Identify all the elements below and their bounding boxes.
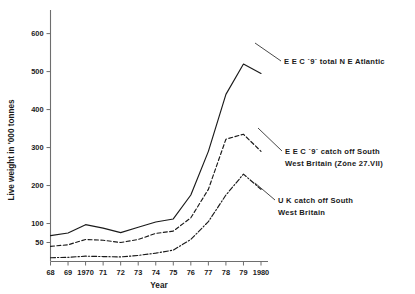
- annotation-uk-southwest-line-2: West Britain: [278, 208, 325, 217]
- y-axis-title-text: Live weight in '000 tonnes: [7, 99, 16, 201]
- annotation-eec-southwest-line-1: E E C `9` catch off South: [285, 147, 380, 156]
- leader-line-eec-southwest: [258, 128, 282, 151]
- annotation-eec-total: E E C `9` total N E Atlantic: [284, 57, 385, 66]
- x-tick-label: 77: [204, 268, 212, 277]
- x-tick-label: 75: [169, 268, 177, 277]
- annotation-eec-southwest-line-2: West Britain (Zóne 27.VII): [285, 159, 383, 168]
- x-axis-ticks: 686919707172737475767778791980: [46, 262, 269, 277]
- y-tick-label: 200: [31, 181, 43, 190]
- y-axis-ticks: 50100200300400500600: [31, 29, 50, 247]
- series-group: [51, 64, 262, 258]
- line-chart: Live weight in '000 tonnes 5010020030040…: [0, 0, 415, 294]
- x-tick-label: 76: [187, 268, 195, 277]
- y-tick-label: 500: [31, 67, 43, 76]
- x-tick-label: 1980: [253, 268, 269, 277]
- x-tick-label: 71: [99, 268, 107, 277]
- annotation-eec-total-line-1: E E C `9` total N E Atlantic: [284, 57, 385, 66]
- y-axis-title: Live weight in '000 tonnes: [7, 99, 16, 201]
- annotation-uk-southwest-line-1: U K catch off South: [278, 196, 353, 205]
- x-tick-label: 78: [222, 268, 230, 277]
- series-line-dash-dot: [51, 174, 262, 258]
- x-tick-label: 72: [117, 268, 125, 277]
- x-tick-label: 74: [152, 268, 161, 277]
- y-tick-label: 600: [31, 29, 43, 38]
- y-tick-label: 300: [31, 143, 43, 152]
- annotation-eec-southwest: E E C `9` catch off South West Britain (…: [285, 147, 383, 168]
- leader-line-uk-southwest: [255, 183, 275, 200]
- x-tick-label: 73: [134, 268, 142, 277]
- annotation-leaders: [255, 43, 282, 200]
- y-tick-label: 50: [35, 238, 43, 247]
- x-tick-label: 68: [46, 268, 54, 277]
- x-tick-label: 1970: [77, 268, 93, 277]
- y-tick-label: 100: [31, 219, 43, 228]
- chart-container: Live weight in '000 tonnes 5010020030040…: [0, 0, 415, 294]
- x-axis-title-text: Year: [150, 281, 168, 290]
- x-tick-label: 79: [239, 268, 247, 277]
- annotation-uk-southwest: U K catch off South West Britain: [278, 196, 353, 217]
- x-tick-label: 69: [64, 268, 72, 277]
- leader-line-eec-total: [255, 43, 281, 61]
- y-tick-label: 400: [31, 105, 43, 114]
- series-line-solid: [51, 64, 262, 236]
